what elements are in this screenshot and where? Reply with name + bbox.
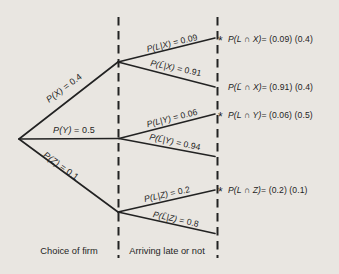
outcome-lbar-and-x: P(L̄ ∩ X) = (0.91) (0.4) — [218, 82, 313, 92]
branch-label-p-y-value: = 0.5 — [72, 125, 95, 135]
probability-tree-figure: P(X) = 0.4 P(Y) = 0.5 P(Z) = 0.1 P(L|X) … — [0, 0, 339, 274]
branch-root-to-y — [19, 139, 119, 140]
outcome-l-and-z-value: = (0.2) (0.1) — [261, 185, 307, 195]
branch-label-p-y: P(Y) = 0.5 — [53, 125, 95, 135]
branch-label-p-y-expr: P(Y) — [53, 125, 71, 135]
outcome-l-and-y-expr: P(L ∩ Y) — [228, 110, 261, 120]
outcome-l-and-x-expr: P(L ∩ X) — [228, 34, 262, 44]
outcome-lbar-and-x-value: = (0.91) (0.4) — [262, 82, 313, 92]
outcome-l-and-y: *P(L ∩ Y) = (0.06) (0.5) — [218, 108, 313, 122]
outcome-l-and-z-expr: P(L ∩ Z) — [228, 185, 261, 195]
asterisk-marker: * — [218, 109, 228, 123]
stage-label-arriving-late-or-not: Arriving late or not — [129, 246, 204, 256]
outcome-lbar-and-x-expr: P(L̄ ∩ X) — [228, 82, 262, 92]
outcome-l-and-x-value: = (0.09) (0.4) — [262, 34, 313, 44]
outcome-l-and-x: *P(L ∩ X) = (0.09) (0.4) — [218, 32, 313, 46]
outcome-l-and-z: *P(L ∩ Z) = (0.2) (0.1) — [218, 183, 308, 197]
asterisk-marker: * — [218, 33, 228, 47]
asterisk-marker: * — [218, 184, 228, 198]
outcome-l-and-y-value: = (0.06) (0.5) — [261, 110, 312, 120]
stage-label-choice-of-firm: Choice of firm — [40, 246, 97, 256]
